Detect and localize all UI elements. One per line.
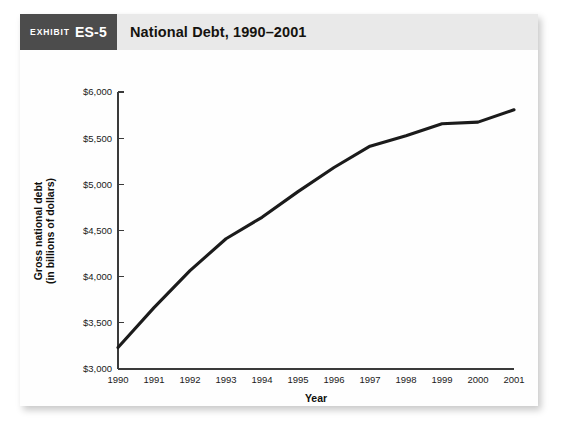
y-axis-tick-label: $5,000 xyxy=(83,179,112,190)
x-axis-tick-label: 1997 xyxy=(359,374,380,385)
x-axis-tick-label: 1994 xyxy=(251,374,272,385)
x-axis-tick-label: 2001 xyxy=(503,374,524,385)
y-axis-title-line1: Gross national debt xyxy=(32,181,44,280)
exhibit-badge-number: ES-5 xyxy=(75,24,107,40)
exhibit-badge-word: Exhibit xyxy=(30,27,70,37)
exhibit-page: Exhibit ES-5 National Debt, 1990–2001 $3… xyxy=(0,0,564,426)
y-axis-tick-marks xyxy=(118,92,124,369)
x-axis-tick-labels: 1990199119921993199419951996199719981999… xyxy=(107,374,524,385)
y-axis-tick-labels: $3,000$3,500$4,000$4,500$5,000$5,500$6,0… xyxy=(83,86,112,374)
y-axis-tick-label: $4,000 xyxy=(83,271,112,282)
exhibit-badge: Exhibit ES-5 xyxy=(20,14,117,50)
y-axis-tick-label: $6,000 xyxy=(83,86,112,97)
x-axis-tick-label: 2000 xyxy=(467,374,488,385)
line-chart: $3,000$3,500$4,000$4,500$5,000$5,500$6,0… xyxy=(20,50,538,406)
y-axis-tick-label: $3,500 xyxy=(83,317,112,328)
exhibit-card: Exhibit ES-5 National Debt, 1990–2001 $3… xyxy=(20,14,538,406)
x-axis-tick-label: 1996 xyxy=(323,374,344,385)
y-axis-tick-label: $4,500 xyxy=(83,225,112,236)
x-axis-tick-label: 1993 xyxy=(215,374,236,385)
x-axis-tick-label: 1999 xyxy=(431,374,452,385)
exhibit-header: Exhibit ES-5 National Debt, 1990–2001 xyxy=(20,14,538,50)
y-axis-title-line2: (in billions of dollars) xyxy=(44,178,56,284)
exhibit-title: National Debt, 1990–2001 xyxy=(117,14,538,50)
chart-plot-area: $3,000$3,500$4,000$4,500$5,000$5,500$6,0… xyxy=(20,50,538,406)
x-axis-tick-label: 1995 xyxy=(287,374,308,385)
x-axis-title: Year xyxy=(305,392,327,404)
debt-series-line xyxy=(118,110,514,348)
x-axis-tick-label: 1990 xyxy=(107,374,128,385)
x-axis-tick-label: 1992 xyxy=(179,374,200,385)
y-axis-tick-label: $3,000 xyxy=(83,363,112,374)
x-axis-tick-label: 1991 xyxy=(143,374,164,385)
y-axis-tick-label: $5,500 xyxy=(83,133,112,144)
x-axis-tick-label: 1998 xyxy=(395,374,416,385)
